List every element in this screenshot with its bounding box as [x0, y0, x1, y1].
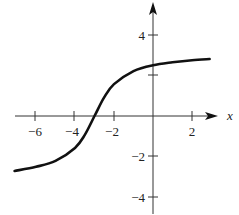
y-tick-label: 4: [139, 28, 146, 43]
y-tick-label: −4: [131, 190, 145, 205]
function-curve: [15, 59, 210, 171]
y-tick-label: −2: [131, 149, 145, 164]
x-tick-label: −2: [105, 124, 119, 139]
chart-canvas: x −6 −4 −2 2 4 −2 −4: [0, 0, 239, 215]
x-tick-label: 2: [189, 124, 196, 139]
x-tick-label: −4: [65, 124, 79, 139]
x-axis-label: x: [226, 108, 233, 123]
x-tick-label: −6: [28, 124, 42, 139]
